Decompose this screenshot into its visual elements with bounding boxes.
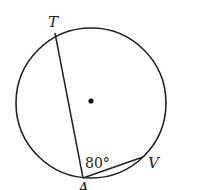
center-point [88,98,93,103]
chord-TA [55,33,83,178]
label-A: A [76,179,89,190]
label-T: T [48,13,59,31]
geometry-diagram: T V A 80° [0,0,197,190]
label-V: V [148,154,161,172]
angle-label: 80° [85,155,110,171]
